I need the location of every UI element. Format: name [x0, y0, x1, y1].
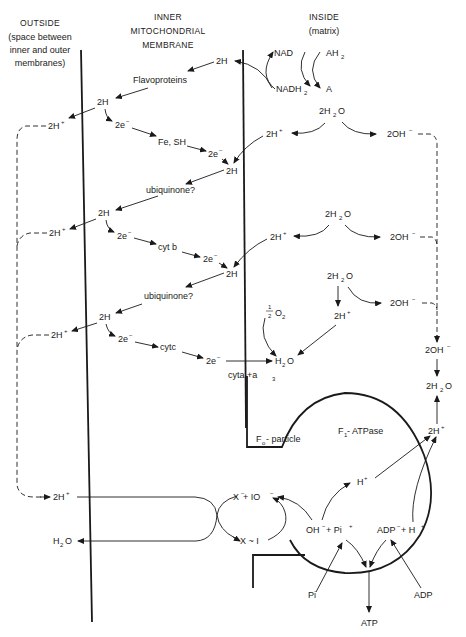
- flavoproteins-label: Flavoproteins: [133, 75, 188, 85]
- 2h-2-label: 2H: [226, 166, 238, 176]
- o2-to-h2o-arrow: [263, 318, 276, 356]
- 2h-plus-in-3-to-h2o-arrow: [298, 325, 336, 355]
- 2h-plus-in-1-to-2h-arrow: [234, 136, 263, 163]
- 2h-to-flavoproteins-arrow: [188, 62, 214, 71]
- 2e-5-label: 2e −: [118, 332, 133, 344]
- cyt-b-label: cyt b: [158, 242, 177, 252]
- 2oh-4-label: 2OH −: [425, 343, 451, 355]
- svg-text:2: 2: [341, 54, 345, 60]
- 2h-plus-in-2-to-2h-arrow: [234, 239, 267, 267]
- 2h-2-to-ubiquinone-arrow: [186, 170, 224, 184]
- svg-text:2OH: 2OH: [425, 345, 444, 355]
- svg-text:+: +: [283, 230, 287, 236]
- svg-text:+: +: [441, 424, 445, 430]
- header-outside-line4: membranes): [15, 58, 66, 68]
- 2oh-3-dashed-connector: [422, 303, 437, 310]
- fe-sh-label: Fe, SH: [158, 137, 186, 147]
- nad-to-nadh2-arrow: [301, 52, 310, 86]
- svg-text:2OH: 2OH: [387, 129, 406, 139]
- oh-pi-to-h-plus-arrow: [322, 483, 350, 520]
- 2h-plus-out-3-dashed-connector: [17, 335, 49, 350]
- svg-text:2: 2: [341, 277, 345, 283]
- h2o-in-1-label: 2H 2 O: [319, 106, 345, 118]
- ah2-to-a-arrow: [313, 52, 321, 88]
- atp-label: ATP: [361, 618, 378, 628]
- svg-text:2: 2: [304, 90, 308, 96]
- 2h-4-label: 2H: [226, 269, 238, 279]
- h2o-3-to-2oh-arrow: [348, 287, 381, 303]
- svg-text:2H: 2H: [426, 381, 438, 391]
- 2oh-1-label: 2OH −: [387, 127, 413, 139]
- 2h-1-to-2e-arrow: [105, 109, 112, 121]
- 2h-plus-out-2-dashed-connector: [17, 233, 47, 246]
- ubiquinone-2-to-2h-arrow: [116, 304, 142, 313]
- svg-text:2: 2: [333, 112, 337, 118]
- svg-text:H: H: [275, 356, 282, 366]
- cytc-to-2e-arrow: [182, 352, 203, 358]
- h2o-2-to-2h-plus-arrow: [294, 225, 329, 236]
- svg-text:2H: 2H: [319, 106, 331, 116]
- fo-lower-outline: [253, 555, 305, 588]
- svg-text:2: 2: [440, 387, 444, 393]
- svg-text:2H: 2H: [428, 426, 440, 436]
- oh-pi-to-atp-arrow: [346, 540, 366, 567]
- adp-label: ADP: [414, 590, 433, 600]
- svg-text:−: −: [128, 229, 132, 235]
- svg-text:2H: 2H: [270, 232, 282, 242]
- pi-label: Pi: [308, 590, 316, 600]
- svg-text:+: +: [364, 475, 368, 481]
- cyta-a3-label: cyta +a 3: [228, 370, 276, 382]
- svg-text:2e: 2e: [118, 334, 128, 344]
- 2h-5-to-2e-arrow: [106, 324, 115, 336]
- ah2-label: AH 2: [326, 48, 345, 60]
- oh-pi-to-x-io-arrow: [278, 497, 312, 520]
- h2o-out-label: H 2 O: [53, 536, 72, 548]
- svg-text:−: −: [217, 354, 221, 360]
- 2e-3-label: 2e −: [117, 229, 132, 241]
- 2e-6-label: 2e −: [206, 354, 221, 366]
- svg-text:X: X: [233, 492, 239, 502]
- cytc-label: cytc: [160, 342, 177, 352]
- 2h-plus-out-1-label: 2H +: [48, 119, 65, 131]
- 2h-plus-in-1-label: 2H +: [266, 127, 283, 139]
- svg-text:- ATPase: - ATPase: [347, 426, 383, 436]
- svg-text:2OH: 2OH: [390, 232, 409, 242]
- fesh-to-2e-arrow: [187, 146, 206, 151]
- svg-text:+: +: [62, 226, 66, 232]
- svg-text:- particle: - particle: [266, 434, 301, 444]
- svg-text:cyta +a: cyta +a: [228, 370, 257, 380]
- svg-text:+: +: [347, 309, 351, 315]
- 2oh-3-label: 2OH −: [390, 296, 416, 308]
- a-label: A: [326, 84, 332, 94]
- svg-text:2H: 2H: [266, 129, 278, 139]
- svg-text:2e: 2e: [115, 120, 125, 130]
- svg-text:2: 2: [282, 314, 286, 320]
- 2h-plus-out-4-label: 2H +: [53, 490, 70, 502]
- x-i-to-x-io-arrow: [268, 498, 286, 540]
- svg-text:O: O: [287, 356, 294, 366]
- 2e-5-to-cytc-arrow: [135, 342, 158, 347]
- svg-text:O: O: [445, 381, 452, 391]
- svg-text:+ IO: + IO: [243, 492, 260, 502]
- svg-text:2H: 2H: [49, 228, 61, 238]
- 2h-plus-in-2-label: 2H +: [270, 230, 287, 242]
- f1-atpase-label: F 1 - ATPase: [338, 426, 383, 438]
- 2h-plus-right-label: 2H +: [428, 424, 445, 436]
- header-inside: INSIDE (matrix): [309, 12, 340, 36]
- header-outside-line3: inner and outer: [10, 45, 71, 55]
- svg-text:+: +: [64, 328, 68, 334]
- nad-label: NAD: [274, 48, 294, 58]
- header-membrane-line1: INNER: [154, 12, 182, 22]
- 2e-2-label: 2e −: [208, 147, 223, 159]
- svg-text:O: O: [275, 308, 282, 318]
- h2o-in-3-label: 2H 2 O: [327, 271, 353, 283]
- 2e-1-to-fesh-arrow: [132, 128, 156, 136]
- svg-text:−: −: [270, 490, 274, 496]
- oh-pi-label: OH − + Pi +: [306, 523, 353, 535]
- ubiquinone-1-to-2h-arrow: [116, 196, 158, 210]
- svg-text:−: −: [129, 332, 133, 338]
- header-outside: OUTSIDE (space between inner and outer m…: [8, 18, 72, 68]
- svg-text:2H: 2H: [327, 271, 339, 281]
- svg-text:2: 2: [339, 215, 343, 221]
- svg-text:NADH: NADH: [276, 84, 302, 94]
